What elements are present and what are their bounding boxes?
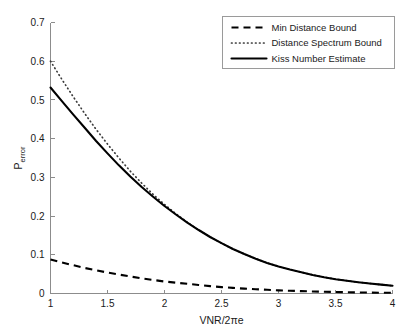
legend-label: Min Distance Bound (272, 22, 357, 33)
x-tick-label: 2 (162, 298, 168, 309)
legend-label: Distance Spectrum Bound (272, 37, 382, 48)
x-tick-label: 3.5 (329, 298, 343, 309)
x-tick-label: 2.5 (215, 298, 229, 309)
x-tick-label: 1.5 (101, 298, 115, 309)
y-tick-label: 0 (39, 288, 45, 299)
x-tick-label: 3 (276, 298, 282, 309)
x-tick-label: 1 (48, 298, 54, 309)
x-axis-title: VNR/2πe (199, 314, 243, 326)
y-tick-label: 0.2 (31, 211, 45, 222)
chart-canvas: 11.522.533.54 00.10.20.30.40.50.60.7 VNR… (0, 0, 408, 336)
y-tick-label: 0.7 (31, 17, 45, 28)
x-tick-label: 4 (390, 298, 396, 309)
y-tick-label: 0.4 (31, 133, 45, 144)
legend-label: Kiss Number Estimate (272, 53, 366, 64)
y-tick-label: 0.3 (31, 172, 45, 183)
y-tick-label: 0.5 (31, 95, 45, 106)
x-axis-title-text: VNR/2πe (199, 314, 243, 326)
chart-figure: 11.522.533.54 00.10.20.30.40.50.60.7 VNR… (0, 0, 408, 336)
chart-legend[interactable]: Min Distance BoundDistance Spectrum Boun… (223, 17, 395, 69)
y-tick-label: 0.6 (31, 56, 45, 67)
y-tick-label: 0.1 (31, 249, 45, 260)
